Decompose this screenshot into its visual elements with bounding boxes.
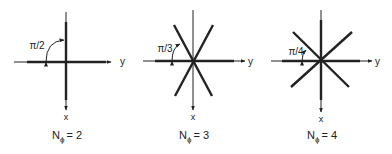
- x-axis-label: x: [64, 112, 69, 122]
- y-axis-label: y: [375, 56, 380, 67]
- n-phi-label: Nϕ= 4: [307, 129, 337, 144]
- n-phi-label: Nϕ= 3: [179, 129, 209, 144]
- figure-n2: π/2 y x Nϕ= 2: [14, 12, 125, 144]
- y-axis-label: y: [248, 56, 253, 67]
- x-axis-label: x: [319, 114, 324, 124]
- figure-n4: π/4 y x Nϕ= 4: [271, 10, 380, 144]
- y-axis-label: y: [120, 56, 125, 67]
- x-axis-label: x: [191, 112, 196, 122]
- angle-label: π/3: [157, 43, 173, 54]
- diagram-canvas: π/2 y x Nϕ= 2 π/3 y x Nϕ= 3 π/4 y x Nϕ= …: [0, 0, 392, 154]
- figure-n3: π/3 y x Nϕ= 3: [143, 10, 253, 144]
- n-phi-label: Nϕ= 2: [52, 129, 82, 144]
- angle-arc: [172, 44, 180, 61]
- angle-arc: [46, 40, 64, 62]
- angle-label: π/2: [29, 40, 45, 51]
- angle-label: π/4: [288, 46, 304, 57]
